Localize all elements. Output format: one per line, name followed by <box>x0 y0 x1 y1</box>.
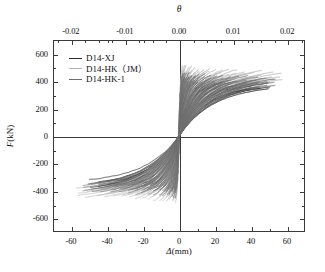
tick <box>300 164 304 165</box>
tick-label: -60 <box>65 236 76 246</box>
legend-swatch-2 <box>69 79 82 80</box>
y-axis-title: F(kN) <box>5 125 15 148</box>
tick-label: -40 <box>101 236 112 246</box>
tick-label: -20 <box>137 236 148 246</box>
tick <box>300 110 304 111</box>
legend-item: D14-HK-1 <box>69 74 147 85</box>
tick-label: -0.01 <box>116 26 133 36</box>
tick <box>302 151 304 152</box>
tick-label: 600 <box>36 49 48 59</box>
tick-label: 0.00 <box>172 26 186 36</box>
tick-label: -200 <box>33 158 48 168</box>
legend-item: D14-HK（JM） <box>69 64 147 75</box>
tick <box>302 68 304 69</box>
tick <box>302 96 304 97</box>
tick <box>302 178 304 179</box>
tick <box>300 55 304 56</box>
tick <box>302 206 304 207</box>
tick-label: 40 <box>247 236 255 246</box>
tick-label: -600 <box>33 213 48 223</box>
tick <box>300 82 304 83</box>
plot-area: D14-XJ D14-HK（JM） D14-HK-1 <box>53 40 305 232</box>
tick <box>300 192 304 193</box>
top-axis-title: θ <box>177 4 182 14</box>
chart-figure: θ F(kN) Δ(mm) D14-XJ D14-HK（JM） D14-HK-1 <box>0 0 325 272</box>
tick-label: 200 <box>36 104 48 114</box>
tick <box>300 219 304 220</box>
legend: D14-XJ D14-HK（JM） D14-HK-1 <box>69 53 147 85</box>
tick-label: 0 <box>177 236 181 246</box>
tick-label: 0.01 <box>226 26 240 36</box>
tick-label: 0 <box>44 131 48 141</box>
tick <box>302 123 304 124</box>
hysteresis-loop <box>83 85 276 185</box>
legend-item: D14-XJ <box>69 53 147 64</box>
tick-label: 400 <box>36 76 48 86</box>
tick-label: 20 <box>211 236 219 246</box>
tick <box>300 137 304 138</box>
legend-swatch-0 <box>69 58 82 59</box>
tick-label: 60 <box>283 236 291 246</box>
x-axis-title: Δ(mm) <box>166 246 191 256</box>
legend-label-1: D14-HK（JM） <box>86 64 147 75</box>
tick-label: 0.02 <box>280 26 294 36</box>
legend-label-2: D14-HK-1 <box>86 74 125 85</box>
legend-swatch-1 <box>69 68 82 69</box>
tick-label: -0.02 <box>62 26 79 36</box>
tick-label: -400 <box>33 186 48 196</box>
legend-label-0: D14-XJ <box>86 53 115 64</box>
